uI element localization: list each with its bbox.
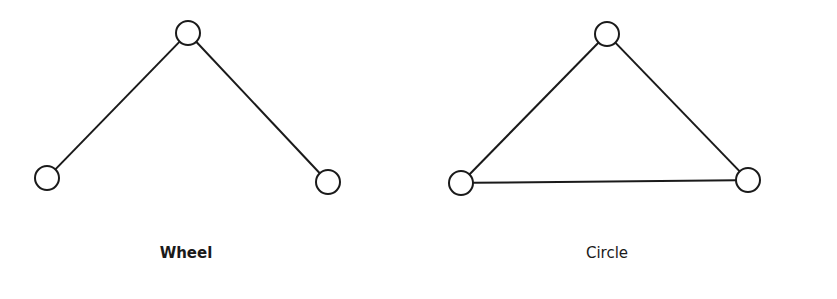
node-top — [176, 21, 200, 45]
node-right — [316, 170, 340, 194]
edge-top-left — [55, 42, 179, 170]
edge-top-right — [615, 43, 739, 172]
node-left — [35, 166, 59, 190]
node-top — [595, 22, 619, 46]
edge-left-right — [473, 180, 736, 183]
edge-top-left — [469, 43, 598, 175]
circle-label: Circle — [547, 244, 667, 262]
wheel-label: Wheel — [126, 244, 246, 262]
edge-top-right — [196, 42, 320, 174]
circle-network — [449, 22, 760, 195]
node-right — [736, 168, 760, 192]
wheel-network — [35, 21, 340, 194]
node-left — [449, 171, 473, 195]
